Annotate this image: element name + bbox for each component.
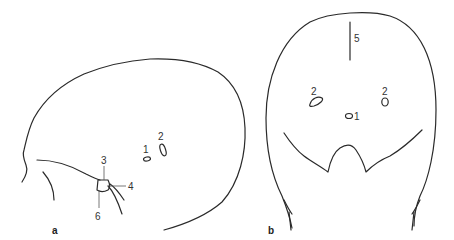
- marker-2-left-shape: [310, 97, 323, 106]
- marker-2-label: 2: [158, 131, 164, 142]
- cranium-outline: [22, 59, 245, 230]
- marker-1-shape-frontal: [346, 114, 353, 119]
- mastoid-line-1: [108, 186, 122, 214]
- marker-4-label: 4: [128, 181, 134, 192]
- marker-6-label: 6: [95, 211, 101, 222]
- jaw-line: [43, 172, 54, 200]
- marker-2-right-shape: [382, 98, 388, 106]
- panel-b-frontal-skull: 5 2 2 1 b: [266, 13, 436, 236]
- marker-2-left-label: 2: [311, 86, 317, 97]
- lower-contour: [284, 130, 422, 172]
- marker-2-right-label: 2: [382, 86, 388, 97]
- marker-1-label-frontal: 1: [354, 111, 360, 122]
- skull-diagram: 1 2 3 4 6 a 5 2 2 1 b: [0, 0, 454, 240]
- neck-curve-right: [412, 200, 420, 214]
- marker-3-label: 3: [101, 155, 107, 166]
- panel-b-label: b: [268, 225, 274, 236]
- panel-a-label: a: [52, 225, 58, 236]
- panel-a-lateral-skull: 1 2 3 4 6 a: [22, 59, 245, 236]
- cranium-outline-frontal: [266, 13, 436, 228]
- marker-1-label: 1: [143, 144, 149, 155]
- marker-2-shape: [159, 143, 168, 156]
- marker-5-label: 5: [354, 33, 360, 44]
- marker-1-shape: [143, 156, 151, 161]
